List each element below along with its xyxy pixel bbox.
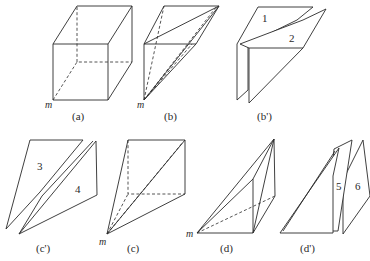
panel-c-pyramid: m (c) xyxy=(99,140,185,255)
caption-b: (b) xyxy=(164,110,177,123)
panel-b-prime-split: 1 2 (b') xyxy=(237,7,326,123)
panel-a-cube: m (a) xyxy=(45,6,132,123)
panel-b-prism: m (b) xyxy=(137,6,219,123)
piece-label-2: 2 xyxy=(289,32,295,44)
vertex-m-label-b: m xyxy=(137,99,144,110)
caption-d: (d) xyxy=(220,242,233,255)
panel-c-prime-split: 3 4 (c') xyxy=(6,140,97,255)
panel-d-prime-split: 5 6 (d') xyxy=(280,140,370,255)
caption-c-prime: (c') xyxy=(36,242,51,255)
vertex-m-label-d: m xyxy=(186,228,193,239)
vertex-m-label-c: m xyxy=(99,236,106,247)
vertex-m-label-a: m xyxy=(45,99,52,110)
piece-label-3: 3 xyxy=(37,160,43,172)
cube-dissection-diagram: m (a) m (b) 1 2 (b') 3 4 (c') xyxy=(0,0,370,261)
piece-label-5: 5 xyxy=(336,180,342,192)
caption-b-prime: (b') xyxy=(257,110,272,123)
piece-label-4: 4 xyxy=(75,183,81,195)
piece-label-6: 6 xyxy=(355,180,361,192)
caption-d-prime: (d') xyxy=(300,242,315,255)
piece-label-1: 1 xyxy=(262,12,268,24)
panel-d-prism: m (d) xyxy=(186,139,275,255)
caption-a: (a) xyxy=(72,110,85,123)
caption-c: (c) xyxy=(127,242,140,255)
